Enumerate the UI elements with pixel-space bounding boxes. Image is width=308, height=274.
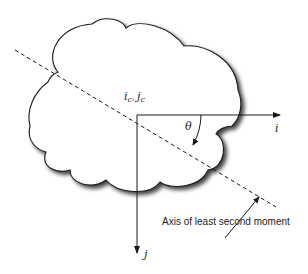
callout-label: Axis of least second moment [162,216,290,227]
origin-j-sub: c [141,95,146,104]
i-axis-label: i [275,122,279,135]
cloud-region [29,19,241,192]
angle-theta-label: θ [185,120,192,133]
second-moment-diagram: ic, jc θ i j Axis of least second moment [0,0,308,274]
j-axis-label: j [141,248,148,261]
